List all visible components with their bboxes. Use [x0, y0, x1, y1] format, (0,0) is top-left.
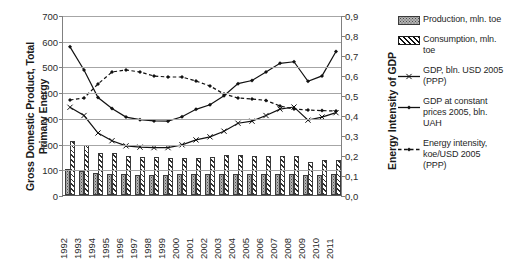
y-tick-label: 700 [30, 11, 58, 22]
legend-swatch-icon [398, 16, 420, 25]
y2-tick-label: 0,1 [345, 171, 371, 182]
legend-label: Energy intensity, koe/USD 2005 (PPP) [423, 138, 505, 171]
line-marker [264, 98, 268, 102]
plot-area [62, 16, 342, 196]
x-tick-label: 2007 [268, 238, 279, 259]
y-tick-label: 100 [30, 165, 58, 176]
x-tick-label: 2003 [212, 238, 223, 259]
y-tick-mark [59, 119, 63, 120]
left-axis-tick-labels: 0100200300400500600700 [30, 16, 58, 196]
line-marker [152, 74, 156, 78]
y2-tick-label: 0,7 [345, 51, 371, 62]
legend-item[interactable]: Consumption, mln. toe [398, 34, 505, 56]
chart-figure: Gross Domestic Product, Total Primary En… [0, 0, 505, 266]
line-path [70, 107, 336, 148]
x-tick-label: 2008 [282, 238, 293, 259]
legend-item[interactable]: Energy intensity, koe/USD 2005 (PPP) [398, 138, 505, 171]
y2-tick-label: 0,3 [345, 131, 371, 142]
gridline [63, 16, 341, 17]
y2-tick-label: 0,0 [345, 191, 371, 202]
line-marker [320, 109, 324, 113]
x-tick-label: 1998 [142, 238, 153, 259]
legend-label: GDP at constant prices 2005, bln. UAH [423, 96, 505, 129]
y2-tick-label: 0,6 [345, 71, 371, 82]
line-marker [334, 109, 338, 113]
line-marker [82, 96, 86, 100]
line-marker [236, 96, 240, 100]
line-series-group [63, 16, 343, 196]
legend-swatch-icon [398, 98, 420, 107]
x-tick-label: 2006 [254, 238, 265, 259]
y-tick-mark [59, 170, 63, 171]
y-tick-label: 600 [30, 36, 58, 47]
y2-tick-label: 0,5 [345, 91, 371, 102]
line-marker [180, 75, 184, 79]
line-marker [68, 98, 72, 102]
x-tick-label: 2000 [170, 238, 181, 259]
x-tick-label: 1997 [128, 238, 139, 259]
gridline [63, 170, 341, 171]
y2-tick-label: 0,9 [345, 11, 371, 22]
x-tick-label: 1994 [86, 238, 97, 259]
legend-label: Consumption, mln. toe [423, 34, 505, 56]
legend-label: Production, mln. toe [423, 14, 501, 25]
line-marker [407, 148, 411, 152]
x-tick-label: 2002 [198, 238, 209, 259]
x-tick-label: 2001 [184, 238, 195, 259]
gridline [63, 145, 341, 146]
x-tick-label: 1995 [100, 238, 111, 259]
x-tick-label: 1996 [114, 238, 125, 259]
y-tick-mark [59, 145, 63, 146]
right-axis-title: Energy Intensity of GDP [386, 36, 398, 186]
y-tick-mark [59, 196, 63, 197]
y-tick-mark [59, 93, 63, 94]
legend-item[interactable]: Production, mln. toe [398, 14, 505, 25]
x-tick-label: 2010 [310, 238, 321, 259]
y-tick-label: 0 [30, 191, 58, 202]
line-marker [67, 105, 72, 110]
x-tick-label: 2005 [240, 238, 251, 259]
x-tick-label: 1993 [72, 238, 83, 259]
line-marker [221, 129, 226, 134]
gridline [63, 67, 341, 68]
gridline [63, 93, 341, 94]
y2-tick-label: 0,8 [345, 31, 371, 42]
legend-item[interactable]: GDP at constant prices 2005, bln. UAH [398, 96, 505, 129]
y-tick-label: 200 [30, 139, 58, 150]
y-tick-mark [59, 67, 63, 68]
y2-tick-label: 0,4 [345, 111, 371, 122]
x-tick-label: 1999 [156, 238, 167, 259]
x-tick-label: 2004 [226, 238, 237, 259]
line-marker [306, 108, 310, 112]
y-tick-label: 500 [30, 62, 58, 73]
gridline [63, 119, 341, 120]
line-marker [407, 106, 411, 110]
y-tick-label: 400 [30, 88, 58, 99]
gridline [63, 42, 341, 43]
x-tick-label: 1992 [58, 238, 69, 259]
chart-legend: Production, mln. toeConsumption, mln. to… [398, 14, 505, 180]
legend-label: GDP, bln. USD 2005 (PPP) [423, 65, 505, 87]
y-tick-mark [59, 42, 63, 43]
line-marker [124, 68, 128, 72]
y-tick-label: 300 [30, 113, 58, 124]
x-tick-label: 2011 [324, 239, 335, 259]
x-axis-tick-labels: 1992199319941995199619971998199920002001… [62, 199, 342, 261]
line-marker [263, 113, 268, 118]
line-marker [250, 97, 254, 101]
line-marker [194, 79, 198, 83]
right-axis-tick-labels: 0,00,10,20,30,40,50,60,70,80,9 [345, 16, 371, 196]
line-marker [109, 138, 114, 143]
legend-swatch-icon [398, 67, 420, 76]
y2-tick-label: 0,2 [345, 151, 371, 162]
line-marker [81, 113, 86, 118]
legend-swatch-icon [398, 140, 420, 149]
line-marker [95, 130, 100, 135]
legend-item[interactable]: GDP, bln. USD 2005 (PPP) [398, 65, 505, 87]
x-tick-label: 2009 [296, 238, 307, 259]
line-marker [208, 84, 212, 88]
line-marker [166, 75, 170, 79]
legend-swatch-icon [398, 36, 420, 45]
y-tick-mark [59, 16, 63, 17]
line-series [67, 104, 338, 150]
